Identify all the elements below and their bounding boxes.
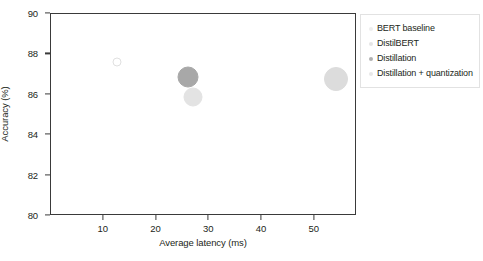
data-point-bert-baseline bbox=[112, 58, 121, 67]
data-point-distilbert bbox=[184, 87, 203, 106]
legend-item[interactable]: Distillation bbox=[364, 51, 475, 66]
x-tick-label: 20 bbox=[150, 223, 160, 234]
data-point-distillation bbox=[178, 66, 199, 87]
legend-marker-icon bbox=[364, 42, 377, 46]
data-point-distillation-quantization bbox=[324, 67, 348, 91]
x-tick-label: 50 bbox=[309, 223, 319, 234]
legend-marker-icon bbox=[364, 27, 377, 31]
y-axis-title: Accuracy (%) bbox=[0, 86, 10, 141]
legend-marker-icon bbox=[364, 57, 377, 61]
x-axis: Average latency (ms) 1020304050 bbox=[0, 215, 483, 261]
chart-legend: BERT baselineDistilBERTDistillationDisti… bbox=[360, 14, 480, 88]
plot-area bbox=[50, 13, 356, 215]
x-tick-mark bbox=[260, 215, 261, 220]
legend-item[interactable]: Distillation + quantization bbox=[364, 66, 475, 81]
y-tick-label: 82 bbox=[28, 169, 38, 180]
legend-item[interactable]: DistilBERT bbox=[364, 36, 475, 51]
x-tick-label: 30 bbox=[203, 223, 213, 234]
x-tick-mark bbox=[208, 215, 209, 220]
legend-item[interactable]: BERT baseline bbox=[364, 21, 475, 36]
y-tick-label: 90 bbox=[28, 8, 38, 19]
x-tick-mark bbox=[313, 215, 314, 220]
x-tick-label: 10 bbox=[98, 223, 108, 234]
legend-item-label: Distillation bbox=[377, 53, 416, 64]
x-tick-label: 40 bbox=[256, 223, 266, 234]
plot-markers-layer bbox=[51, 14, 355, 214]
y-tick-label: 86 bbox=[28, 88, 38, 99]
x-tick-mark bbox=[102, 215, 103, 220]
y-tick-label: 88 bbox=[28, 48, 38, 59]
legend-item-label: BERT baseline bbox=[377, 23, 435, 34]
legend-marker-icon bbox=[364, 72, 377, 76]
y-tick-label: 84 bbox=[28, 129, 38, 140]
x-axis-title: Average latency (ms) bbox=[159, 237, 247, 248]
x-tick-mark bbox=[155, 215, 156, 220]
scatter-chart-figure: 808284868890 Accuracy (%) Average latenc… bbox=[0, 0, 483, 261]
legend-item-label: DistilBERT bbox=[377, 38, 419, 49]
legend-item-label: Distillation + quantization bbox=[377, 68, 473, 79]
